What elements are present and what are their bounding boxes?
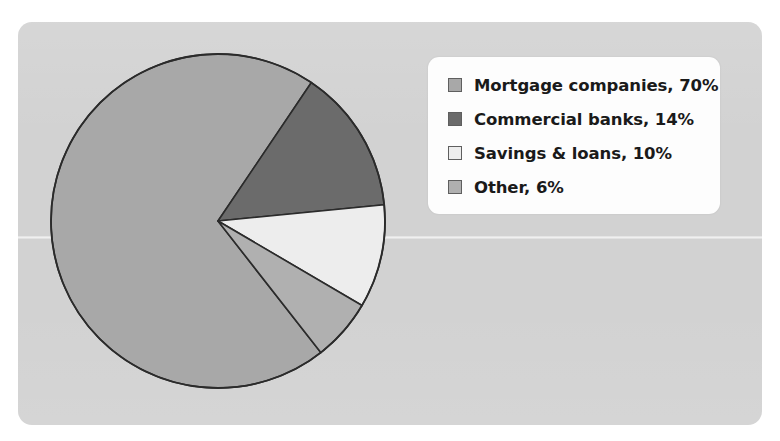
legend-label-savings-and-loans: Savings & loans, 10% [474,144,672,163]
pie-chart-svg [48,51,390,393]
legend-swatch-other [448,180,462,194]
page-root: Mortgage companies, 70% Commercial banks… [0,0,780,441]
pie-slice-group [51,54,385,388]
legend-label-other: Other, 6% [474,178,564,197]
legend-label-commercial-banks: Commercial banks, 14% [474,110,694,129]
legend-item-commercial-banks[interactable]: Commercial banks, 14% [448,102,712,136]
legend-swatch-mortgage-companies [448,78,462,92]
legend-swatch-commercial-banks [448,112,462,126]
legend-item-other[interactable]: Other, 6% [448,170,712,204]
legend-item-list: Mortgage companies, 70% Commercial banks… [448,68,712,204]
legend-item-savings-and-loans[interactable]: Savings & loans, 10% [448,136,712,170]
legend-label-mortgage-companies: Mortgage companies, 70% [474,76,718,95]
pie-chart [48,51,390,393]
legend: Mortgage companies, 70% Commercial banks… [428,57,720,214]
legend-swatch-savings-and-loans [448,146,462,160]
legend-item-mortgage-companies[interactable]: Mortgage companies, 70% [448,68,712,102]
